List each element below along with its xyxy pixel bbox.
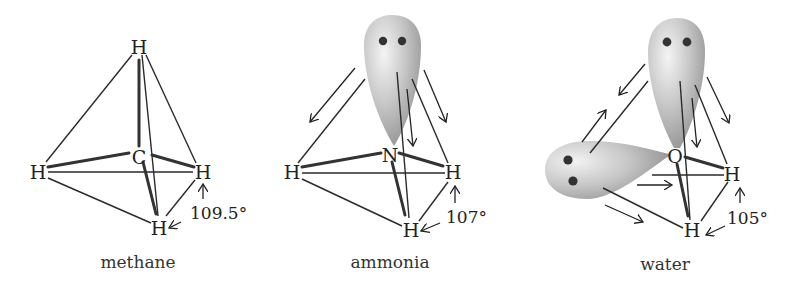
methane-h-left: H xyxy=(30,161,47,183)
water-panel: O H H 105° water xyxy=(545,18,768,274)
water-h-bottom: H xyxy=(684,219,701,241)
methane-central-atom: C xyxy=(132,146,147,168)
ammonia-panel: N H H H 107° ammonia xyxy=(284,15,487,272)
ammonia-electron-dot xyxy=(398,37,406,45)
water-caption: water xyxy=(640,254,691,274)
water-electron-dot xyxy=(663,38,672,47)
water-electron-dot xyxy=(563,155,572,164)
water-bond-angle: 105° xyxy=(727,208,768,228)
ammonia-h-left: H xyxy=(284,161,301,183)
ammonia-central-atom: N xyxy=(382,144,399,166)
ammonia-electron-dot xyxy=(379,37,387,45)
ammonia-h-right: H xyxy=(445,161,462,183)
methane-caption: methane xyxy=(100,252,175,272)
ammonia-bond-angle: 107° xyxy=(446,207,487,227)
water-electron-dot xyxy=(683,38,692,47)
methane-h-bottom: H xyxy=(151,217,168,239)
water-central-atom: O xyxy=(667,145,683,167)
water-h-right: H xyxy=(724,163,741,185)
molecular-geometry-figure: H C H H H 109.5° methane N H H H 1 xyxy=(0,0,787,282)
methane-h-right: H xyxy=(195,161,212,183)
methane-bond-angle: 109.5° xyxy=(190,203,247,223)
methane-panel: H C H H H 109.5° methane xyxy=(30,36,247,272)
ammonia-h-bottom: H xyxy=(403,219,420,241)
water-lone-pair-lobe-top xyxy=(648,18,705,148)
ammonia-caption: ammonia xyxy=(350,252,429,272)
methane-h-top: H xyxy=(131,36,148,58)
water-electron-dot xyxy=(568,176,577,185)
